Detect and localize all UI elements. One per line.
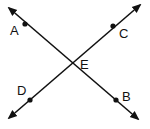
label-a: A bbox=[10, 23, 19, 38]
point-d-dot bbox=[27, 97, 32, 102]
point-b-dot bbox=[113, 97, 118, 102]
label-e: E bbox=[80, 57, 89, 72]
label-b: B bbox=[122, 89, 131, 104]
point-c-dot bbox=[110, 23, 115, 28]
point-a-dot bbox=[22, 21, 27, 26]
label-c: C bbox=[119, 26, 128, 41]
label-d: D bbox=[17, 83, 26, 98]
intersecting-lines-diagram: A B C D E bbox=[0, 0, 150, 129]
